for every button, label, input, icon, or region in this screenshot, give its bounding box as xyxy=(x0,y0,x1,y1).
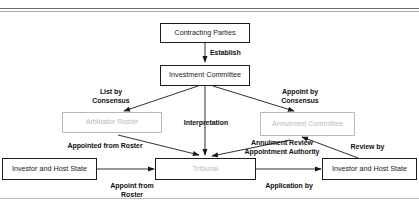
node-investor-host-state-right-label: Investor and Host State xyxy=(330,165,409,173)
diagram-canvas: Contracting Parties Investment Committee… xyxy=(0,0,419,207)
node-annulment-committee[interactable]: Annulment Committee xyxy=(260,112,355,136)
edge-label-appoint-from-roster: Appoint from Roster xyxy=(100,182,164,200)
edge-label-list-by-consensus: List by Consensus xyxy=(82,88,140,106)
node-annulment-committee-label: Annulment Committee xyxy=(270,120,345,128)
node-investor-host-state-left-label: Investor and Host State xyxy=(10,165,89,173)
edge-label-application-by: Application by xyxy=(255,182,323,191)
edge-label-annulment-review-appointment-authority: Annulment Review Appointment Authority xyxy=(222,139,342,157)
node-contracting-parties[interactable]: Contracting Parties xyxy=(160,23,250,43)
node-arbitrator-roster[interactable]: Arbitrator Roster xyxy=(62,112,162,133)
node-investor-host-state-right[interactable]: Investor and Host State xyxy=(322,158,417,180)
edge-label-appoint-by-consensus: Appoint by Consensus xyxy=(265,88,335,106)
node-contracting-parties-label: Contracting Parties xyxy=(172,29,237,37)
edge-label-review-by: Review by xyxy=(340,143,395,152)
edge-label-interpretation: Interpretation xyxy=(170,119,242,128)
node-investment-committee-label: Investment Committee xyxy=(167,71,243,79)
node-arbitrator-roster-label: Arbitrator Roster xyxy=(84,118,141,126)
edge-label-establish: Establish xyxy=(210,49,260,58)
edge-label-appointed-from-roster: Appointed from Roster xyxy=(55,142,155,151)
node-tribunal[interactable]: Tribunal xyxy=(155,158,256,180)
node-investor-host-state-left[interactable]: Investor and Host State xyxy=(2,158,97,180)
node-investment-committee[interactable]: Investment Committee xyxy=(160,65,250,86)
node-tribunal-label: Tribunal xyxy=(191,165,221,173)
